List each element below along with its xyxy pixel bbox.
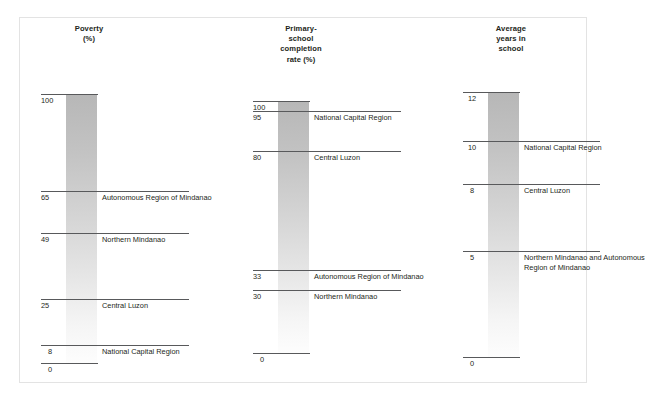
panel-title-line: rate (%) — [287, 55, 316, 64]
tick-label: National Capital Region — [314, 113, 442, 123]
tick-value: 10 — [463, 143, 481, 152]
panel-title-line: years in — [496, 34, 526, 43]
panel-title-poverty: Poverty (%) — [46, 24, 132, 44]
tick-label: National Capital Region — [524, 143, 649, 153]
tick-rule — [463, 357, 520, 358]
panel-completion: Primary- school completion rate (%) 100 … — [242, 18, 447, 384]
tick-rule — [463, 141, 600, 142]
panel-title-line: (%) — [83, 34, 95, 43]
tick-label: Central Luzon — [314, 153, 442, 163]
tick-rule — [253, 151, 401, 152]
tick-value: 33 — [253, 272, 275, 281]
gradient-bar-poverty — [66, 94, 97, 363]
panel-title-completion: Primary- school completion rate (%) — [258, 24, 344, 65]
tick-rule — [253, 270, 401, 271]
tick-rule — [463, 184, 600, 185]
panel-poverty: Poverty (%) 100 65 Autonomous Region of … — [30, 18, 235, 384]
tick-value: 0 — [463, 359, 481, 368]
tick-rule — [41, 94, 98, 95]
tick-rule — [41, 345, 189, 346]
tick-rule — [463, 251, 600, 252]
tick-value: 30 — [253, 292, 275, 301]
tick-rule — [253, 111, 401, 112]
tick-value: 0 — [41, 365, 59, 374]
chart-frame: Poverty (%) 100 65 Autonomous Region of … — [19, 17, 587, 383]
gradient-bar-completion — [278, 101, 309, 353]
tick-label: Northern Mindanao — [314, 292, 442, 302]
panel-title-line: school — [498, 44, 523, 53]
tick-rule — [463, 92, 520, 93]
tick-value: 95 — [253, 113, 275, 122]
tick-label: National Capital Region — [102, 347, 230, 357]
tick-value: 100 — [41, 96, 63, 105]
tick-value: 80 — [253, 153, 275, 162]
tick-rule — [41, 233, 189, 234]
tick-value: 5 — [463, 253, 481, 262]
tick-label: Northern Mindanao and Autonomous Region … — [524, 253, 649, 272]
panel-title-line: Primary- — [285, 24, 317, 33]
tick-rule — [41, 299, 189, 300]
tick-value: 25 — [41, 301, 63, 310]
tick-label: Autonomous Region of Mindanao — [102, 193, 230, 203]
panel-title-line: school — [288, 34, 313, 43]
tick-value: 8 — [463, 186, 481, 195]
tick-rule — [253, 290, 401, 291]
panel-title-line: Average — [496, 24, 526, 33]
tick-rule — [41, 191, 189, 192]
tick-label: Central Luzon — [102, 301, 230, 311]
panel-title-schoolyears: Average years in school — [468, 24, 554, 55]
tick-rule — [41, 363, 98, 364]
panel-schoolyears: Average years in school 12 10 National C… — [452, 18, 588, 384]
tick-value: 49 — [41, 235, 63, 244]
tick-value: 12 — [463, 94, 481, 103]
tick-label: Central Luzon — [524, 186, 649, 196]
panel-title-line: completion — [280, 44, 322, 53]
tick-label: Autonomous Region of Mindanao — [314, 272, 442, 282]
tick-rule — [253, 353, 310, 354]
tick-value: 65 — [41, 193, 63, 202]
panel-title-line: Poverty — [75, 24, 104, 33]
tick-value: 8 — [41, 347, 59, 356]
gradient-bar-schoolyears — [488, 92, 519, 357]
tick-value: 0 — [253, 355, 271, 364]
tick-label: Northern Mindanao — [102, 235, 230, 245]
tick-rule — [253, 101, 310, 102]
